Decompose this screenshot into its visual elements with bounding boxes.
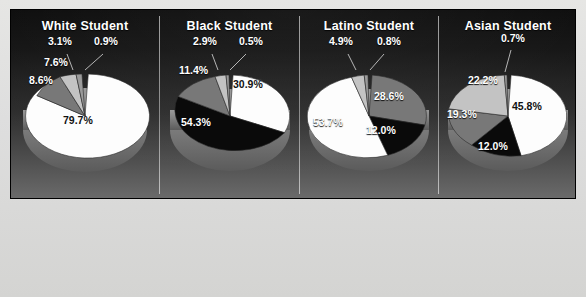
pie-svg-white-student: [14, 38, 156, 188]
pie-label-native-american: 0.8%: [377, 35, 401, 47]
pie-label-native-american: 0.5%: [239, 35, 263, 47]
pie-label-asian: 22.2%: [468, 74, 498, 86]
pie-label-white: 45.8%: [512, 100, 542, 112]
pie-label-white: 53.7%: [313, 116, 343, 128]
chart-title-black-student: Black Student: [160, 19, 299, 33]
figure-root: White Student: [0, 0, 586, 297]
charts-panel: White Student: [10, 9, 576, 199]
pie-label-latino: 28.6%: [374, 90, 404, 102]
pie-label-native-american: 0.9%: [94, 35, 118, 47]
pie-label-latino: 7.6%: [44, 56, 68, 68]
pie-label-asian: 3.1%: [48, 35, 72, 47]
chart-title-asian-student: Asian Student: [439, 19, 576, 33]
pie-label-black: 54.3%: [181, 116, 211, 128]
pie-label-native-american: 0.7%: [501, 32, 525, 44]
chart-cell-latino-student: Latino Student 5: [300, 10, 438, 199]
pie-black-student: 30.9% 54.3% 11.4% 2.9% 0.5%: [160, 38, 299, 198]
pie-svg-latino-student: [301, 38, 437, 188]
chart-title-latino-student: Latino Student: [300, 19, 438, 33]
pie-white-student: 79.7% 8.6% 7.6% 3.1% 0.9%: [11, 38, 159, 198]
pie-svg-black-student: [162, 38, 298, 188]
chart-cell-black-student: Black Student: [160, 10, 299, 199]
chart-cell-asian-student: Asian Student 45: [439, 10, 576, 199]
pie-label-latino: 11.4%: [179, 64, 208, 76]
pie-label-black: 12.0%: [366, 124, 396, 136]
pie-label-latino: 19.3%: [447, 108, 477, 120]
pie-latino-student: 53.7% 12.0% 28.6% 4.9% 0.8%: [300, 38, 438, 198]
chart-cell-white-student: White Student: [11, 10, 159, 199]
pie-label-asian: 2.9%: [193, 35, 217, 47]
pie-label-white: 30.9%: [233, 78, 263, 90]
pie-asian-student: 45.8% 12.0% 19.3% 22.2% 0.7%: [439, 38, 576, 198]
chart-title-white-student: White Student: [11, 19, 159, 33]
pie-label-asian: 4.9%: [329, 35, 353, 47]
footer: Note: Figures are for the 2000-2001 scho…: [0, 200, 586, 297]
pie-label-white: 79.7%: [63, 114, 93, 126]
pie-label-black: 8.6%: [29, 74, 53, 86]
pie-label-black: 12.0%: [478, 140, 508, 152]
